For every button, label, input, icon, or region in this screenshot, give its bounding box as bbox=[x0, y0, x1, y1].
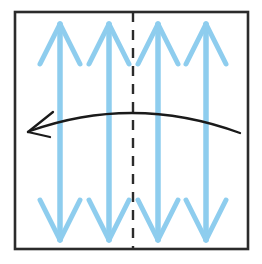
figure-canvas bbox=[0, 0, 262, 264]
diagram-svg bbox=[0, 0, 262, 264]
canvas-background bbox=[0, 0, 262, 264]
